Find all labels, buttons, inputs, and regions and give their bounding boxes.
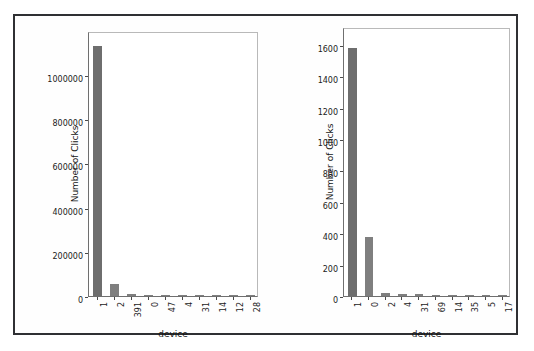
bar (398, 294, 407, 296)
x-tick-label: 2 (118, 302, 126, 307)
y-tick-label: 800000 (52, 120, 83, 128)
y-tick-label: 1600 (318, 46, 338, 54)
x-tick-mark (165, 297, 166, 300)
x-tick-mark (385, 297, 386, 300)
y-tick-mark (340, 77, 343, 78)
y-tick-label: 400000 (52, 209, 83, 217)
y-tick-label: 800 (323, 171, 338, 179)
y-tick-label: 1400 (318, 77, 338, 85)
y-tick-label: 0 (78, 297, 83, 305)
x-tick-mark (131, 297, 132, 300)
x-tick-label: 391 (135, 302, 143, 317)
bar (93, 46, 102, 296)
y-tick-mark (340, 109, 343, 110)
x-tick-mark (199, 297, 200, 300)
x-tick-mark (485, 297, 486, 300)
bar (482, 295, 491, 296)
x-tick-label: 12 (237, 302, 245, 312)
subplot-right: Number of Clicks 02004006008001000120014… (267, 16, 520, 333)
x-tick-label: 1 (355, 302, 363, 307)
bar-series-left (89, 33, 257, 296)
x-tick-mark (452, 297, 453, 300)
x-tick-mark (401, 297, 402, 300)
x-tick-label: 1 (101, 302, 109, 307)
bar (348, 48, 357, 296)
x-tick-label: 4 (405, 302, 413, 307)
x-tick-label: 5 (489, 302, 497, 307)
y-tick-mark (340, 140, 343, 141)
x-tick-mark (97, 297, 98, 300)
y-tick-mark (340, 297, 343, 298)
bar (246, 295, 255, 296)
x-tick-label: 35 (472, 302, 480, 312)
x-axis-label-right: device (343, 329, 510, 339)
x-tick-mark (250, 297, 251, 300)
y-tick-mark (85, 209, 88, 210)
y-tick-label: 200 (323, 266, 338, 274)
scanned-page-frame: Number of Clicks 02000004000006000008000… (13, 14, 518, 335)
y-tick-mark (85, 76, 88, 77)
x-axis-label-left: device (88, 329, 258, 339)
x-tick-mark (351, 297, 352, 300)
x-tick-mark (216, 297, 217, 300)
bar (195, 295, 204, 296)
bar (178, 295, 187, 296)
y-tick-label: 1000000 (47, 76, 83, 84)
y-tick-mark (340, 266, 343, 267)
x-tick-mark (468, 297, 469, 300)
y-tick-mark (340, 171, 343, 172)
figure: Number of Clicks 02000004000006000008000… (15, 16, 516, 333)
y-axis-label-right: Number of Clicks (325, 117, 335, 207)
bar (229, 295, 238, 296)
x-tick-label: 14 (456, 302, 464, 312)
y-tick-label: 200000 (52, 253, 83, 261)
x-tick-label: 31 (422, 302, 430, 312)
y-tick-label: 0 (333, 297, 338, 305)
y-tick-label: 600000 (52, 164, 83, 172)
x-tick-label: 47 (169, 302, 177, 312)
y-tick-label: 1200 (318, 109, 338, 117)
bar (161, 295, 170, 296)
y-tick-label: 600 (323, 203, 338, 211)
subplot-left: Number of Clicks 02000004000006000008000… (15, 16, 267, 333)
y-tick-mark (85, 253, 88, 254)
x-tick-label: 0 (152, 302, 160, 307)
bar (127, 294, 136, 296)
bar (465, 295, 474, 296)
x-tick-mark (182, 297, 183, 300)
x-tick-label: 14 (220, 302, 228, 312)
x-tick-label: 28 (254, 302, 262, 312)
bar-series-right (344, 29, 509, 296)
plot-area-right (343, 28, 510, 297)
y-tick-mark (340, 234, 343, 235)
y-tick-label: 1000 (318, 140, 338, 148)
bar (381, 293, 390, 296)
bar (432, 295, 441, 296)
plot-area-left (88, 32, 258, 297)
x-tick-label: 31 (203, 302, 211, 312)
bar (212, 295, 221, 296)
bar (498, 295, 507, 296)
bar (365, 237, 374, 296)
x-tick-mark (114, 297, 115, 300)
x-tick-label: 4 (186, 302, 194, 307)
y-tick-mark (85, 164, 88, 165)
y-tick-mark (85, 120, 88, 121)
bar (110, 284, 119, 296)
x-tick-mark (148, 297, 149, 300)
y-tick-mark (85, 297, 88, 298)
bar (144, 295, 153, 296)
y-tick-mark (340, 46, 343, 47)
y-tick-label: 400 (323, 234, 338, 242)
x-tick-mark (418, 297, 419, 300)
x-tick-mark (435, 297, 436, 300)
x-tick-label: 69 (439, 302, 447, 312)
bar (415, 294, 424, 296)
bar (448, 295, 457, 296)
x-tick-mark (368, 297, 369, 300)
x-tick-label: 17 (506, 302, 514, 312)
x-tick-mark (502, 297, 503, 300)
y-tick-mark (340, 203, 343, 204)
x-tick-label: 0 (372, 302, 380, 307)
x-tick-label: 2 (389, 302, 397, 307)
